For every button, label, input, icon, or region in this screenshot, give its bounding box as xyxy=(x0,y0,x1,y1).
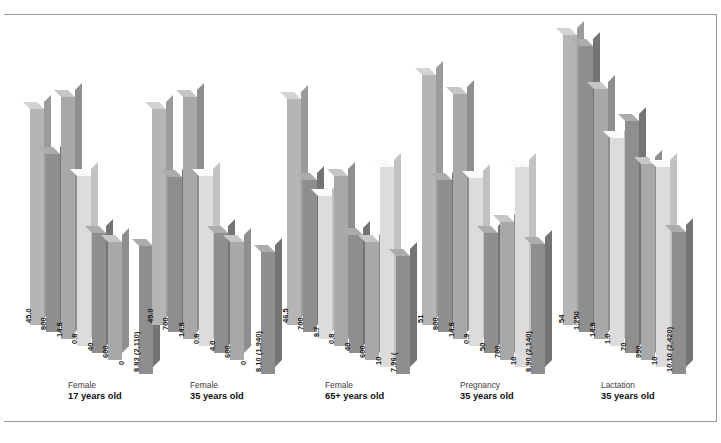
bar-value-label: 8.7 xyxy=(312,326,321,337)
bar-front-face xyxy=(303,180,317,332)
bar-value-label: 10 xyxy=(650,357,659,365)
bar-value-label: 45.0 xyxy=(24,308,33,323)
bar-value-label: 46.5 xyxy=(281,308,290,323)
bar xyxy=(484,233,498,353)
bar-value-label: 4.0 xyxy=(208,340,217,351)
bar-value-label: 10 xyxy=(374,357,383,365)
bar xyxy=(334,176,348,346)
bar xyxy=(610,138,624,346)
bar xyxy=(61,97,75,339)
bar xyxy=(500,222,514,360)
bar-front-face xyxy=(563,35,577,325)
bar-value-label: 1.0 xyxy=(603,333,612,344)
bar-value-label: 51 xyxy=(416,315,425,323)
bar-front-face xyxy=(214,233,228,353)
bar-value-label: 0.8 xyxy=(70,333,79,344)
bar-top-face xyxy=(23,102,44,109)
bar-value-label: 40 xyxy=(86,343,95,351)
category-label-line1: Female xyxy=(190,380,244,391)
bar-front-face xyxy=(365,242,379,360)
bar-top-face xyxy=(254,245,275,252)
bar-group: 541,25014.81.0709501010.10 (2,420) xyxy=(563,14,698,374)
bar-value-label: 14.8 xyxy=(177,322,186,337)
category-label-line1: Lactation xyxy=(601,380,655,391)
bar-top-face xyxy=(618,114,639,121)
bar-group: 46.57008.70.840600107.96 ( xyxy=(287,14,422,374)
bar-top-face xyxy=(508,160,529,167)
bar-front-face xyxy=(77,176,91,346)
bar xyxy=(30,109,44,325)
bar xyxy=(318,196,332,339)
bar-top-face xyxy=(556,28,577,35)
bar-front-face xyxy=(318,196,332,339)
bar-value-label: 70 xyxy=(619,343,628,351)
bar-side-face xyxy=(275,238,282,367)
bar-front-face xyxy=(46,154,60,332)
bar xyxy=(453,94,467,339)
bar xyxy=(349,235,363,353)
bar-value-label: 14.8 xyxy=(447,322,456,337)
bar xyxy=(438,180,452,332)
bar-front-face xyxy=(92,233,106,353)
bar-value-label: 800 xyxy=(39,317,48,330)
bar-value-label: 0.9 xyxy=(462,333,471,344)
bar xyxy=(92,233,106,353)
bar-front-face xyxy=(579,46,593,332)
bar xyxy=(108,242,122,360)
bar-front-face xyxy=(334,176,348,346)
bar xyxy=(594,89,608,339)
bar xyxy=(287,99,301,325)
bar-value-label: 600 xyxy=(358,345,367,358)
bar-front-face xyxy=(469,178,483,346)
bar xyxy=(199,176,213,346)
category-label-line2: 65+ years old xyxy=(325,391,384,403)
category-label-line2: 17 years old xyxy=(68,391,122,403)
bar-top-face xyxy=(446,87,467,94)
bar-side-face xyxy=(122,228,129,353)
bar-value-label: 14.8 xyxy=(588,322,597,337)
category-label-line2: 35 years old xyxy=(601,391,655,403)
bar-value-label: 14.8 xyxy=(55,322,64,337)
bar xyxy=(579,46,593,332)
bar xyxy=(625,121,639,353)
bar xyxy=(365,242,379,360)
category-label-line1: Female xyxy=(325,380,384,391)
bar xyxy=(183,97,197,339)
plot-area: 45.080014.80.84060008.83 (2,110)45.07001… xyxy=(0,14,716,374)
bar-value-label: 0 xyxy=(239,361,248,365)
bar-group: 45.080014.80.84060008.83 (2,110) xyxy=(30,14,165,374)
bar-top-face xyxy=(327,169,348,176)
bar xyxy=(77,176,91,346)
bar-side-face xyxy=(244,228,251,353)
bar-front-face xyxy=(349,235,363,353)
bar-value-label: 600 xyxy=(101,345,110,358)
bar-value-label: 8.83 (2,110) xyxy=(132,331,141,372)
bar-front-face xyxy=(625,121,639,353)
bar-front-face xyxy=(199,176,213,346)
bar-side-face xyxy=(410,242,417,367)
bar-top-face xyxy=(132,239,153,246)
bar-value-label: 600 xyxy=(223,345,232,358)
bar-value-label: 40 xyxy=(343,343,352,351)
bar xyxy=(469,178,483,346)
bar-front-face xyxy=(610,138,624,346)
category-label: Female17 years old xyxy=(68,380,122,402)
bar-value-label: 10.10 (2,420) xyxy=(665,327,674,372)
bar-value-label: 0.8 xyxy=(192,333,201,344)
frame-right-rule xyxy=(716,14,717,422)
bar-front-face xyxy=(183,97,197,339)
bar xyxy=(46,154,60,332)
bar-value-label: 700 xyxy=(296,317,305,330)
bar-value-label: 800 xyxy=(431,317,440,330)
frame-bottom-rule xyxy=(4,421,717,422)
category-label: Female35 years old xyxy=(190,380,244,402)
bar-side-face xyxy=(686,218,693,367)
bar xyxy=(422,75,436,325)
bar-value-label: 45.0 xyxy=(146,308,155,323)
bar-value-label: 8.90 (2,140) xyxy=(524,331,533,372)
bar xyxy=(168,177,182,332)
category-label-line2: 35 years old xyxy=(190,391,244,403)
bar-front-face xyxy=(422,75,436,325)
bar-top-face xyxy=(176,90,197,97)
bar-front-face xyxy=(380,167,394,367)
